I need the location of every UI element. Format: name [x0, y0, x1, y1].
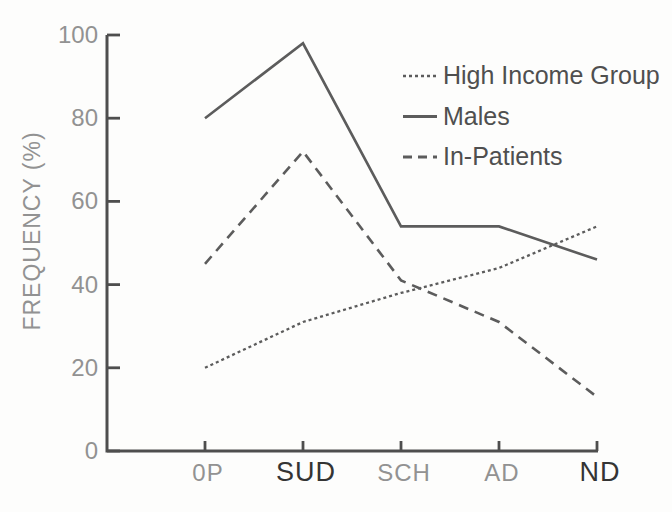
- x-tick-label: ND: [580, 457, 621, 487]
- legend-label: Males: [443, 102, 510, 130]
- legend-label: In-Patients: [443, 142, 563, 170]
- x-tick-label: SCH: [377, 459, 431, 486]
- x-tick-label: AD: [484, 459, 519, 486]
- y-tick-label: 40: [71, 271, 98, 298]
- y-axis-title: FREQUENCY (%): [19, 131, 45, 330]
- y-tick-label: 80: [71, 104, 98, 131]
- x-tick-label: 0P: [192, 459, 223, 486]
- axes: [107, 35, 598, 451]
- series-line-high-income-group: [205, 226, 597, 367]
- y-tick-label: 20: [71, 354, 98, 381]
- x-tick-label: SUD: [276, 457, 336, 487]
- y-tick-label: 100: [58, 21, 98, 48]
- legend-label: High Income Group: [443, 61, 660, 89]
- line-chart-figure: 0204060801000PSUDSCHADNDFREQUENCY (%)Hig…: [0, 0, 672, 512]
- series-line-in-patients: [205, 152, 597, 397]
- frequency-line-chart: 0204060801000PSUDSCHADNDFREQUENCY (%)Hig…: [0, 0, 672, 512]
- y-tick-label: 0: [85, 437, 98, 464]
- y-tick-label: 60: [71, 187, 98, 214]
